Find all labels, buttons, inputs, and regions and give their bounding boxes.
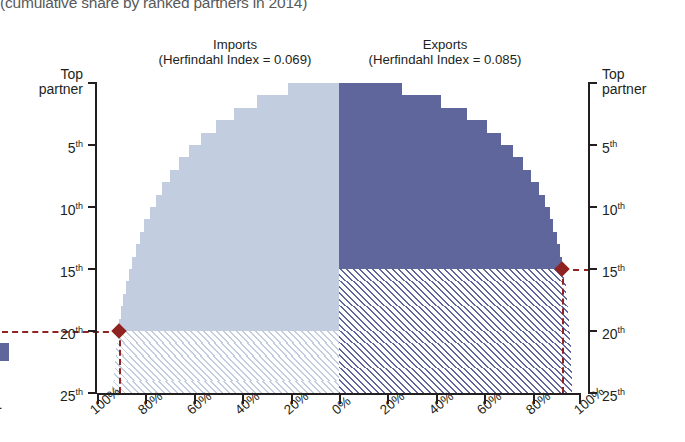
export-bar-rank-17 (339, 281, 566, 294)
export-bar-rank-10 (339, 195, 545, 208)
import-bar-rank-12 (144, 219, 339, 232)
y-tick-left-0 (88, 82, 97, 84)
import-bar-rank-20 (119, 319, 339, 332)
legend-swatch-exports (0, 343, 9, 361)
exports-threshold-vline (562, 269, 564, 393)
y-tick-left-4 (88, 330, 97, 332)
y-tick-right-4 (588, 330, 597, 332)
import-bar-rank-19 (121, 306, 339, 319)
y-tick-right-0 (588, 82, 597, 84)
import-bar-rank-11 (150, 207, 339, 220)
export-bar-rank-19 (339, 306, 568, 319)
import-bar-rank-7 (179, 157, 339, 170)
export-bar-rank-22 (339, 343, 571, 356)
export-bar-rank-5 (339, 133, 501, 146)
y-tick-left-2 (88, 206, 97, 208)
exports-panel-header: Exports (Herfindahl Index = 0.085) (330, 38, 560, 67)
y-label-left-4: 20th (60, 323, 83, 341)
y-label-left-2: 10th (60, 199, 83, 217)
import-bar-rank-5 (201, 133, 339, 146)
y-label-right-3: 15th (602, 261, 625, 279)
bars-layer (97, 83, 581, 393)
y-tick-left-3 (88, 268, 97, 270)
export-bar-rank-14 (339, 244, 560, 257)
y-tick-right-3 (588, 268, 597, 270)
y-label-right-4: 20th (602, 323, 625, 341)
import-bar-rank-15 (132, 257, 339, 270)
export-bar-rank-20 (339, 319, 569, 332)
import-bar-rank-17 (126, 281, 339, 294)
y-tick-left-1 (88, 144, 97, 146)
y-tick-left-5 (88, 392, 97, 394)
y-label-right-0: Toppartner (602, 67, 646, 96)
chart-root: (cumulative share by ranked partners in … (0, 0, 685, 442)
chart-caption: (cumulative share by ranked partners in … (0, 0, 307, 12)
y-label-right-top-line2: partner (602, 81, 646, 97)
export-bar-rank-25 (339, 381, 572, 393)
import-bar-rank-3 (234, 108, 339, 121)
import-bar-rank-10 (156, 195, 339, 208)
y-tick-right-1 (588, 144, 597, 146)
exports-title: Exports (330, 38, 560, 53)
import-bar-rank-14 (136, 244, 339, 257)
y-label-left-0: Toppartner (39, 67, 83, 96)
import-bar-rank-16 (129, 269, 339, 282)
import-bar-rank-6 (189, 145, 339, 158)
imports-subtitle: (Herfindahl Index = 0.069) (120, 53, 350, 68)
import-bar-rank-13 (140, 232, 339, 245)
plot-area (97, 83, 581, 393)
export-bar-rank-15 (339, 257, 562, 270)
export-bar-rank-3 (339, 108, 467, 121)
export-bar-rank-4 (339, 120, 487, 133)
y-label-left-3: 15th (60, 261, 83, 279)
exports-subtitle: (Herfindahl Index = 0.085) (330, 53, 560, 68)
y-label-left-top-line2: partner (39, 81, 83, 97)
import-bar-rank-1 (288, 83, 339, 96)
import-bar-rank-24 (114, 368, 339, 381)
import-bar-rank-18 (123, 294, 339, 307)
y-label-left-5: 25th (60, 385, 83, 403)
import-bar-rank-8 (170, 170, 339, 183)
import-bar-rank-25 (112, 381, 339, 393)
export-bar-rank-21 (339, 331, 570, 344)
export-bar-rank-8 (339, 170, 531, 183)
y-axis-left (88, 83, 97, 393)
import-bar-rank-2 (257, 95, 339, 108)
export-bar-rank-9 (339, 182, 539, 195)
import-bar-rank-9 (162, 182, 339, 195)
imports-panel-header: Imports (Herfindahl Index = 0.069) (120, 38, 350, 67)
export-bar-rank-6 (339, 145, 513, 158)
clipped-corner-glyph: ⌈ (0, 404, 3, 427)
export-bar-rank-13 (339, 232, 557, 245)
export-bar-rank-24 (339, 368, 572, 381)
y-label-left-1: 5th (68, 137, 83, 155)
export-bar-rank-7 (339, 157, 523, 170)
export-bar-rank-1 (339, 83, 402, 96)
y-label-right-2: 10th (602, 199, 625, 217)
imports-threshold-vline (119, 331, 121, 393)
export-bar-rank-16 (339, 269, 564, 282)
import-bar-rank-21 (118, 331, 339, 344)
y-axis-right-spine (588, 83, 590, 393)
y-axis-left-spine (95, 83, 97, 393)
import-bar-rank-23 (115, 356, 339, 369)
export-bar-rank-11 (339, 207, 550, 220)
import-bar-rank-22 (116, 343, 339, 356)
y-label-right-1: 5th (602, 137, 617, 155)
y-axis-right (588, 83, 597, 393)
y-tick-right-2 (588, 206, 597, 208)
export-bar-rank-18 (339, 294, 567, 307)
export-bar-rank-12 (339, 219, 553, 232)
import-bar-rank-4 (216, 120, 339, 133)
export-bar-rank-2 (339, 95, 441, 108)
imports-title: Imports (120, 38, 350, 53)
export-bar-rank-23 (339, 356, 571, 369)
